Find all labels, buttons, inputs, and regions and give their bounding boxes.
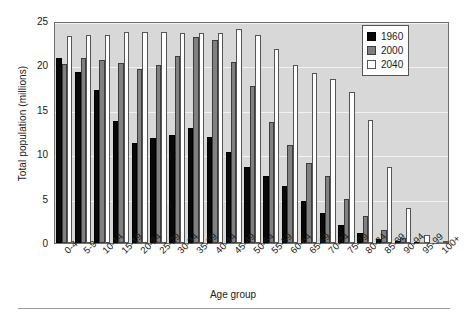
bar-group	[414, 23, 430, 243]
legend-item-2000: 2000	[367, 44, 403, 57]
bar-2040-75-79	[349, 92, 354, 243]
bar-group	[226, 23, 242, 243]
bar-group	[244, 23, 260, 243]
bar-group	[433, 23, 449, 243]
bar-2040-20-24	[142, 32, 147, 243]
y-tick-label: 15	[26, 106, 48, 116]
legend-label: 2000	[381, 46, 403, 56]
bar-2040-35-39	[199, 33, 204, 243]
bar-group	[169, 23, 185, 243]
bar-group	[132, 23, 148, 243]
bar-2040-10-14	[105, 35, 110, 243]
legend-item-2040: 2040	[367, 58, 403, 71]
bar-group	[56, 23, 72, 243]
y-axis-title: Total population (millions)	[17, 24, 28, 224]
bar-2040-25-29	[161, 32, 166, 243]
bar-group	[263, 23, 279, 243]
bar-2040-0-4	[67, 36, 72, 243]
bar-group	[338, 23, 354, 243]
bar-2040-45-49	[236, 29, 241, 243]
bar-group	[301, 23, 317, 243]
bar-2040-5-9	[86, 35, 91, 243]
legend-swatch-icon	[367, 60, 376, 69]
bar-group	[188, 23, 204, 243]
bar-group	[282, 23, 298, 243]
bar-group	[113, 23, 129, 243]
bar-2040-50-54	[255, 35, 260, 243]
legend-label: 1960	[381, 32, 403, 42]
bar-2040-80-84	[368, 120, 373, 243]
bar-2040-15-19	[124, 32, 129, 243]
bar-group	[75, 23, 91, 243]
bar-group	[320, 23, 336, 243]
y-tick-label: 5	[26, 195, 48, 205]
bar-group	[150, 23, 166, 243]
x-axis-title: Age group	[0, 289, 466, 300]
chart-legend: 196020002040	[362, 25, 409, 76]
bar-2040-55-59	[274, 49, 279, 243]
y-tick-label: 0	[26, 239, 48, 249]
bar-group	[94, 23, 110, 243]
legend-label: 2040	[381, 60, 403, 70]
y-tick-label: 20	[26, 61, 48, 71]
bar-2040-40-44	[218, 33, 223, 243]
y-tick-label: 25	[26, 17, 48, 27]
bar-group	[207, 23, 223, 243]
bar-2040-65-69	[312, 73, 317, 243]
legend-swatch-icon	[367, 32, 376, 41]
legend-item-1960: 1960	[367, 30, 403, 43]
footer-divider	[18, 308, 450, 309]
y-tick-label: 10	[26, 150, 48, 160]
bar-2040-70-74	[330, 79, 335, 243]
bar-2040-30-34	[180, 33, 185, 243]
population-bar-chart: Total population (millions) 0510152025 0…	[0, 0, 466, 321]
bar-2040-85-89	[387, 167, 392, 243]
bar-2040-60-64	[293, 65, 298, 243]
legend-swatch-icon	[367, 46, 376, 55]
